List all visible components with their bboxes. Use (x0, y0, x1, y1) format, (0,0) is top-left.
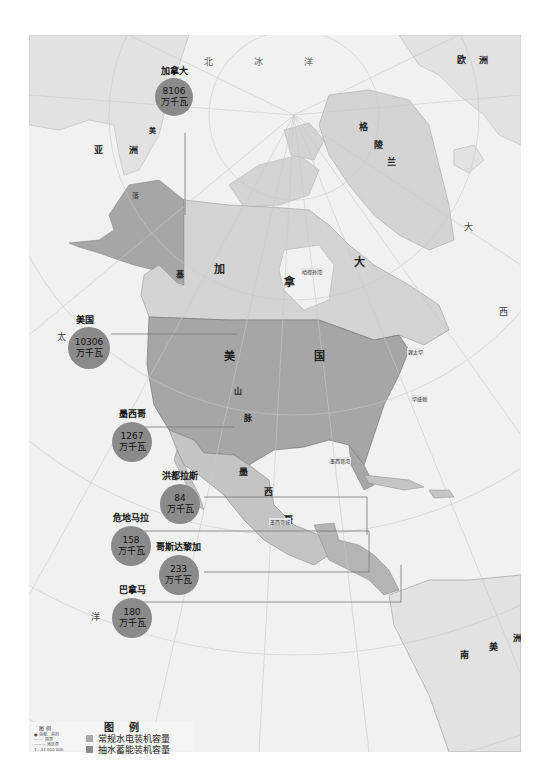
bubble-unit: 万千瓦 (161, 97, 188, 108)
label-canada-2: 拿 (284, 273, 295, 289)
bubble-value: 158 (122, 535, 139, 546)
label-arctic-2: 冰 (254, 55, 263, 68)
label-canada-0: 落 (132, 190, 139, 200)
legend-swatch-conventional (86, 735, 93, 742)
label-greenland-1: 格 (359, 120, 368, 133)
bubble-usa: 美国 10306 万千瓦 (68, 315, 110, 369)
label-washington: 华盛顿 (411, 395, 428, 402)
bubble-value: 233 (170, 564, 187, 575)
label-south-america-3: 洲 (513, 631, 521, 644)
legend-label-pumped: 抽水蓄能装机容量 (98, 743, 170, 756)
bubble-circle: 1267 万千瓦 (112, 422, 152, 462)
bubble-unit: 万千瓦 (119, 618, 146, 629)
legend: 图 例 ● 首都、首府 — — 国界 ——— 地区界 1 : 33 000 00… (31, 722, 193, 750)
label-usa-1: 美 (224, 347, 235, 363)
bubble-costa-rica: 哥斯达黎加 233 万千瓦 (156, 542, 201, 595)
label-europe-2: 洲 (479, 53, 488, 66)
label-pacific-1: 太 (57, 330, 66, 343)
label-pacific-2: 洋 (91, 610, 100, 623)
north-america-map: 亚 洲 欧 洲 北 冰 洋 格 陵 兰 美 落 加 拿 大 基 山 脉 美 国 … (29, 35, 521, 752)
label-south-america-1: 南 (460, 648, 469, 661)
label-hudson-bay: 哈得孙湾 (301, 268, 323, 275)
label-asia-1: 亚 (94, 143, 103, 156)
bubble-circle: 10306 万千瓦 (68, 327, 110, 369)
label-rocky-2: 基 (176, 268, 184, 279)
label-arctic-1: 北 (204, 55, 213, 68)
bubble-name: 墨西哥 (112, 409, 152, 420)
label-gulf-of-mexico: 墨西哥湾 (329, 457, 351, 464)
bubble-value: 180 (123, 607, 140, 618)
label-mexico-1: 墨 (239, 465, 248, 478)
label-ottawa: 渥太华 (407, 348, 424, 355)
bubble-guatemala: 危地马拉 158 万千瓦 (111, 513, 151, 566)
label-south-america-2: 美 (489, 640, 498, 653)
bubble-name: 哥斯达黎加 (156, 542, 201, 553)
label-atlantic-2: 西 (499, 305, 508, 318)
label-atlantic-1: 大 (464, 220, 473, 233)
bubble-value: 1267 (121, 431, 144, 442)
bubble-unit: 万千瓦 (76, 348, 103, 359)
bubble-canada: 加拿大 8106 万千瓦 (155, 66, 193, 116)
bubble-mexico: 墨西哥 1267 万千瓦 (112, 409, 152, 462)
label-rocky-4: 脉 (244, 412, 252, 423)
bubble-unit: 万千瓦 (165, 575, 192, 586)
bubble-unit: 万千瓦 (167, 504, 194, 515)
bubble-circle: 180 万千瓦 (112, 598, 152, 638)
label-greenland-2: 陵 (374, 138, 383, 151)
bubble-name: 巴拿马 (112, 585, 152, 596)
label-mexico-city: 墨西哥城 (269, 518, 291, 525)
bubble-circle: 233 万千瓦 (159, 555, 199, 595)
bubble-value: 84 (174, 493, 185, 504)
bubble-unit: 万千瓦 (119, 442, 146, 453)
bubble-value: 8106 (163, 86, 186, 97)
label-mexico-2: 西 (264, 485, 273, 498)
bubble-honduras: 洪都拉斯 84 万千瓦 (160, 471, 200, 524)
label-canada-3: 大 (354, 253, 365, 269)
label-rocky-3: 山 (234, 385, 242, 396)
legend-swatch-pumped (86, 746, 93, 753)
bubble-circle: 158 万千瓦 (111, 526, 151, 566)
legend-small-title: 图 例 (39, 724, 51, 731)
label-canada-1: 加 (214, 260, 225, 276)
bubble-name: 美国 (76, 315, 110, 326)
bubble-value: 10306 (75, 337, 104, 348)
bubble-unit: 万千瓦 (118, 546, 145, 557)
legend-item-pumped: 抽水蓄能装机容量 (86, 743, 170, 756)
label-arctic-3: 洋 (304, 55, 313, 68)
bubble-name: 加拿大 (155, 66, 193, 77)
bubble-name: 洪都拉斯 (160, 471, 200, 482)
label-alaska-1: 美 (149, 125, 156, 135)
label-asia-2: 洲 (129, 143, 138, 156)
bubble-panama: 巴拿马 180 万千瓦 (112, 585, 152, 638)
label-usa-2: 国 (314, 347, 325, 363)
legend-scale: 1 : 33 000 000 (34, 747, 63, 752)
bubble-name: 危地马拉 (111, 513, 151, 524)
label-greenland-3: 兰 (387, 155, 396, 168)
label-europe-1: 欧 (457, 53, 466, 66)
bubble-circle: 8106 万千瓦 (155, 78, 193, 116)
bubble-circle: 84 万千瓦 (160, 484, 200, 524)
